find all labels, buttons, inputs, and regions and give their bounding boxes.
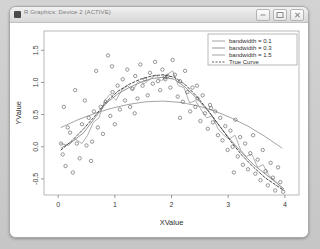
data-point [68, 131, 71, 134]
data-point [134, 74, 137, 77]
data-point [87, 116, 90, 119]
data-point [73, 88, 76, 91]
minimize-button[interactable] [256, 9, 270, 21]
window-controls [256, 9, 304, 21]
x-tick-label: 3 [226, 201, 230, 208]
data-point [195, 84, 198, 87]
curve-group [61, 71, 284, 191]
data-point [89, 159, 92, 162]
data-point [232, 171, 235, 174]
data-point [126, 68, 129, 71]
data-point [136, 97, 139, 100]
data-point [148, 71, 151, 74]
data-point [281, 190, 284, 193]
data-point [211, 121, 214, 124]
x-tick-label: 4 [283, 201, 287, 208]
curve-bandwidth-0-1 [61, 71, 284, 191]
data-point [101, 132, 104, 135]
data-point [279, 180, 282, 183]
data-point [80, 123, 83, 126]
data-point [141, 84, 144, 87]
data-point [206, 127, 209, 130]
legend-label: bandwidth = 1.5 [229, 52, 272, 58]
data-point [254, 172, 257, 175]
x-tick-label: 2 [170, 201, 174, 208]
data-point [236, 155, 239, 158]
chart-legend: bandwidth = 0.1bandwidth = 0.3bandwidth … [208, 34, 297, 65]
data-point [259, 179, 262, 182]
data-point [139, 63, 142, 66]
data-point [106, 54, 109, 57]
data-point [216, 133, 219, 136]
app-icon [14, 11, 21, 18]
data-point [62, 105, 65, 108]
data-point [133, 112, 136, 115]
close-icon [295, 13, 300, 18]
x-tick-label: 1 [113, 201, 117, 208]
data-point [123, 99, 126, 102]
data-point [219, 116, 222, 119]
x-tick-label: 0 [56, 201, 60, 208]
data-point [246, 168, 249, 171]
data-point [156, 79, 159, 82]
data-point [109, 114, 112, 117]
curve-bandwidth-0-3 [61, 77, 284, 188]
data-point [209, 106, 212, 109]
data-point [221, 139, 224, 142]
data-point [191, 86, 194, 89]
data-point [113, 123, 116, 126]
y-tick-label: 1.5 [32, 45, 39, 55]
data-point [158, 88, 161, 91]
data-point [121, 78, 124, 81]
data-point [238, 135, 241, 138]
data-point [94, 69, 97, 72]
data-point [111, 90, 114, 93]
data-point [110, 65, 113, 68]
data-point [243, 142, 246, 145]
data-point [186, 90, 189, 93]
curve-true-curve [61, 75, 284, 191]
data-point [199, 119, 202, 122]
data-point [176, 95, 179, 98]
maximize-icon [277, 12, 284, 18]
y-axis-ticks: 1.51.00.50.0-0.5 [32, 45, 44, 185]
data-point [128, 105, 131, 108]
data-point [118, 108, 121, 111]
data-point [208, 103, 211, 106]
data-point [249, 152, 252, 155]
data-point [83, 99, 86, 102]
data-point [183, 69, 186, 72]
data-point [75, 142, 78, 145]
desktop-background: R Graphics: Device 2 (ACTIVE) 1.51.00.50… [0, 0, 316, 249]
maximize-button[interactable] [273, 9, 287, 21]
data-point [64, 164, 67, 167]
curve-bandwidth-1-5 [61, 101, 282, 148]
legend-label: bandwidth = 0.3 [229, 45, 272, 51]
data-point [226, 148, 229, 151]
scatter-plot: 1.51.00.50.0-0.5 01234 bandwidth = 0.1ba… [10, 23, 308, 237]
data-point [71, 171, 74, 174]
data-point [189, 110, 192, 113]
data-point [153, 60, 156, 63]
data-point [241, 163, 244, 166]
close-button[interactable] [290, 9, 304, 21]
y-tick-label: 0.5 [32, 110, 39, 120]
minimize-icon [261, 15, 266, 16]
data-point [269, 161, 272, 164]
data-point [229, 129, 232, 132]
plot-canvas: 1.51.00.50.0-0.5 01234 bandwidth = 0.1ba… [10, 23, 308, 237]
data-point [169, 86, 172, 89]
window-titlebar[interactable]: R Graphics: Device 2 (ACTIVE) [10, 7, 308, 23]
legend-label: True Curve [229, 59, 259, 65]
data-point [78, 157, 81, 160]
data-point [274, 189, 277, 192]
data-point [261, 148, 264, 151]
y-tick-label: 1.0 [32, 77, 39, 87]
data-point [224, 124, 227, 127]
data-point [251, 133, 254, 136]
data-point [66, 126, 69, 129]
data-point [178, 116, 181, 119]
x-axis-ticks: 01234 [56, 195, 287, 208]
data-point [276, 166, 279, 169]
window-title: R Graphics: Device 2 (ACTIVE) [24, 9, 111, 15]
